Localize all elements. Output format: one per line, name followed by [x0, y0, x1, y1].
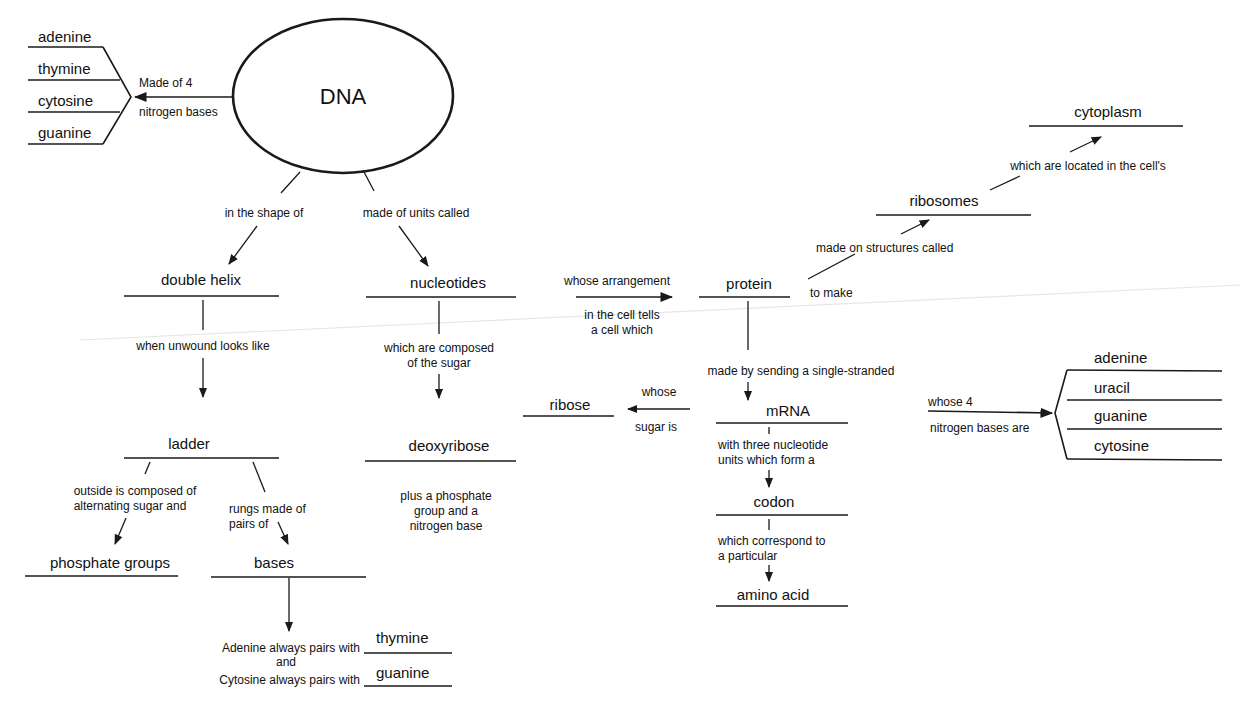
connector-line [145, 462, 150, 474]
connector-line [253, 462, 265, 492]
link-label: whose 4 [927, 395, 973, 409]
link-label: nitrogen bases [139, 105, 218, 119]
link-label: sugar is [635, 420, 677, 434]
node-ribosomes: ribosomes [909, 192, 978, 209]
link-label: nitrogen bases are [930, 421, 1030, 435]
note-text: group and a [414, 504, 478, 518]
link-label: which are located in the cell's [1009, 159, 1166, 173]
link-label: rungs made of [229, 502, 306, 516]
connector-line [990, 176, 1020, 190]
base-line [1067, 459, 1222, 460]
link-label: a cell which [591, 323, 653, 337]
base-item: cytosine [38, 92, 93, 109]
link-label: to make [810, 286, 853, 300]
node-protein: protein [726, 275, 772, 292]
link-label: Made of 4 [139, 76, 193, 90]
scan-line [80, 285, 1240, 340]
pairing-answer: guanine [376, 664, 429, 681]
node-deoxyribose: deoxyribose [409, 437, 490, 454]
base-item: guanine [38, 124, 91, 141]
link-label: a particular [718, 549, 777, 563]
protein-branch: whose arrangement in the cell tells a ce… [523, 103, 1183, 606]
link-label: pairs of [229, 517, 269, 531]
note-text: nitrogen base [410, 519, 483, 533]
dna-node: DNA [233, 19, 453, 173]
arrow-icon [901, 220, 929, 234]
link-label: made on structures called [816, 241, 953, 255]
link-label: of the sugar [407, 356, 470, 370]
link-label: whose arrangement [563, 274, 671, 288]
base-item: cytosine [1094, 437, 1149, 454]
link-label: whose [641, 385, 677, 399]
link-label: with three nucleotide [717, 438, 828, 452]
bracket-icon [1055, 370, 1067, 459]
left-branch: in the shape of double helix when unwoun… [25, 172, 452, 687]
arrow-icon [278, 522, 288, 544]
link-label: units which form a [718, 453, 815, 467]
node-phosphate-groups: phosphate groups [50, 554, 170, 571]
link-label: made of units called [363, 206, 470, 220]
arrow-icon [229, 226, 257, 264]
link-label: made by sending a single-stranded [708, 364, 895, 378]
link-label: which correspond to [717, 534, 826, 548]
pairing-answer: thymine [376, 629, 429, 646]
arrow-icon [399, 226, 428, 266]
base-item: adenine [1094, 349, 1147, 366]
dna-bases-group: adenine thymine cytosine guanine Made of… [28, 28, 233, 144]
note-text: plus a phosphate [400, 489, 492, 503]
middle-branch: made of units called nucleotides which a… [363, 170, 516, 533]
node-codon: codon [754, 493, 795, 510]
node-mrna: mRNA [766, 402, 810, 419]
link-label: alternating sugar and [74, 499, 187, 513]
base-item: uracil [1094, 379, 1130, 396]
node-ladder: ladder [168, 435, 210, 452]
pairing-text: and [276, 655, 296, 669]
dna-concept-map: DNA adenine thymine cytosine guanine Mad… [0, 0, 1240, 716]
rna-bases-group: whose 4 nitrogen bases are adenine uraci… [927, 349, 1222, 460]
node-double-helix: double helix [161, 271, 242, 288]
base-line [1067, 370, 1222, 371]
base-item: guanine [1094, 407, 1147, 424]
node-cytoplasm: cytoplasm [1074, 103, 1142, 120]
node-nucleotides: nucleotides [410, 274, 486, 291]
link-label: which are composed [383, 341, 494, 355]
dna-title: DNA [320, 84, 367, 109]
connector-line [808, 254, 855, 279]
connector-line [281, 172, 300, 193]
node-bases: bases [254, 554, 294, 571]
link-label: when unwound looks like [135, 339, 270, 353]
arrow-icon [928, 411, 1052, 413]
node-ribose: ribose [550, 396, 591, 413]
pairing-text: Adenine always pairs with [222, 641, 360, 655]
base-item: thymine [38, 60, 91, 77]
base-item: adenine [38, 28, 91, 45]
link-label: in the shape of [225, 206, 304, 220]
arrow-icon [115, 518, 126, 544]
node-amino-acid: amino acid [737, 586, 810, 603]
connector-line [363, 170, 374, 191]
arrow-icon [1070, 137, 1101, 152]
link-label: in the cell tells [584, 308, 659, 322]
pairing-text: Cytosine always pairs with [219, 673, 360, 687]
link-label: outside is composed of [74, 484, 197, 498]
bracket-icon [103, 47, 131, 144]
